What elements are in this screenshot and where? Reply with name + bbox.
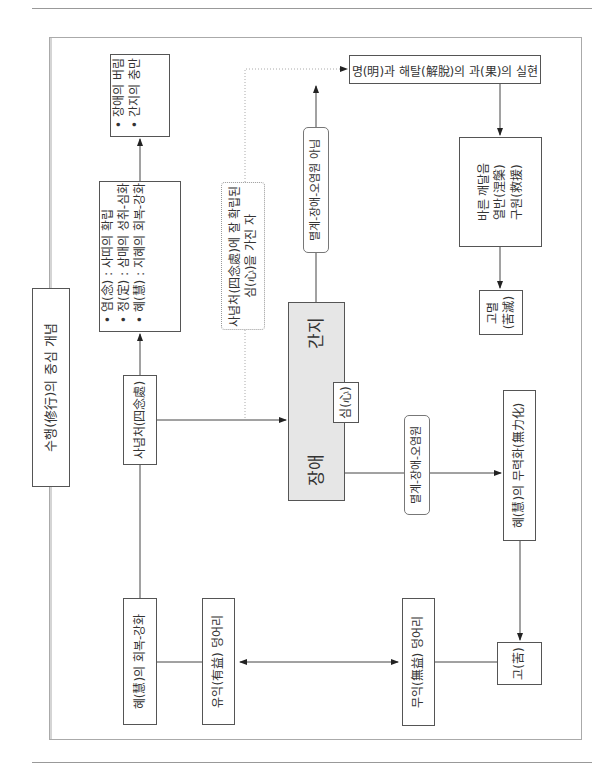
beneficial-text: 유익(有益) 덩어리 bbox=[210, 615, 226, 707]
defiled-label: 멸계-장애-오염원 bbox=[404, 415, 430, 515]
awakening-line: 열반(涅槃) bbox=[492, 164, 508, 219]
wisdom-restore-text: 혜(慧)의 회복-강화 bbox=[132, 614, 148, 710]
wisdom-disable-text: 혜(慧)의 무력화(無力化) bbox=[511, 403, 527, 529]
not-defiled-text: 멸계-장애-오염원 아님 bbox=[309, 139, 324, 240]
suffering-box: 고(苦) bbox=[497, 642, 542, 685]
established-mind-box: 사념처(四念處)에 잘 확립된 심(心)을 가진 자 bbox=[221, 182, 265, 330]
awakening-line: 바른 깨달음 bbox=[476, 163, 492, 222]
satipatthana-text: 사념처(四念處) bbox=[132, 381, 148, 459]
unbeneficial-box: 무익(無益) 덩어리 bbox=[402, 598, 435, 726]
suffering-text: 고(苦) bbox=[511, 647, 527, 679]
hindrance-text: 장애 bbox=[305, 454, 328, 486]
mind-box: 심(心) bbox=[333, 382, 359, 423]
not-defiled-label: 멸계-장애-오염원 아님 bbox=[303, 127, 329, 253]
right-awakening-box: 바른 깨달음 열반(涅槃) 구원(救援) bbox=[459, 137, 542, 247]
cessation-box: 고멸 (苦滅) bbox=[479, 290, 523, 335]
training-item: 혜(慧) : 지혜의 회복-강화 bbox=[132, 183, 148, 323]
cessation-line: (苦滅) bbox=[501, 296, 517, 329]
diagram-canvas: 수행(修行)의 중심 개념 장애의 버림 간지의 충만 염(念) : 사띠의 확… bbox=[0, 0, 592, 775]
established-mind-line: 심(心)을 가진 자 bbox=[243, 214, 259, 298]
fill-item: 간지의 충만 bbox=[127, 58, 143, 128]
training-item: 정(定) : 삼매의 성취-심화 bbox=[116, 183, 132, 323]
satipatthana-box: 사념처(四念處) bbox=[123, 375, 157, 465]
abandon-fill-box: 장애의 버림 간지의 충만 bbox=[110, 54, 170, 137]
wisdom-restore-box: 혜(慧)의 회복-강화 bbox=[123, 598, 157, 725]
training-item: 염(念) : 사띠의 확립 bbox=[100, 209, 116, 323]
three-training-box: 염(念) : 사띠의 확립 정(定) : 삼매의 성취-심화 혜(慧) : 지혜… bbox=[99, 181, 181, 332]
title-box: 수행(修行)의 중심 개념 bbox=[32, 288, 70, 487]
established-mind-line: 사념처(四念處)에 잘 확립된 bbox=[227, 186, 243, 327]
wisdom-disable-box: 혜(慧)의 무력화(無力化) bbox=[503, 390, 536, 541]
defiled-text: 멸계-장애-오염원 bbox=[410, 426, 425, 504]
title-text: 수행(修行)의 중심 개념 bbox=[42, 323, 60, 451]
mind-text: 심(心) bbox=[338, 386, 354, 418]
beneficial-box: 유익(有益) 덩어리 bbox=[202, 598, 235, 725]
unbeneficial-text: 무익(無益) 덩어리 bbox=[410, 616, 426, 708]
awakening-line: 구원(救援) bbox=[509, 164, 525, 219]
wisdom-liberation-text: 명(明)과 해탈(解脫)의 과(果)의 실현 bbox=[349, 62, 541, 79]
abandon-item: 장애의 버림 bbox=[111, 58, 127, 128]
ganji-text: 간지 bbox=[305, 317, 328, 349]
cessation-line: 고멸 bbox=[485, 302, 501, 324]
